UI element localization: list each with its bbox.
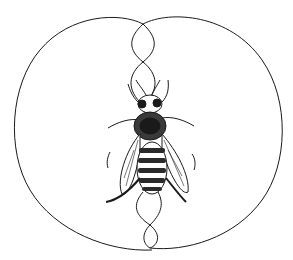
mid-leg-right: [162, 117, 194, 126]
thorax-shading: [140, 118, 160, 134]
eye-left: [138, 100, 146, 108]
figure-eight-upper: [131, 24, 155, 105]
eye-right: [153, 99, 161, 107]
waggle-dance-illustration: [0, 0, 293, 260]
illustration-svg: [0, 0, 293, 260]
motion-mark-right: [192, 154, 195, 170]
figure-eight-lower: [136, 192, 161, 248]
front-leg-right: [162, 80, 168, 102]
bee: [106, 80, 195, 202]
left-loop-path: [14, 17, 152, 250]
antenna-left: [136, 80, 146, 95]
motion-mark-left: [107, 152, 110, 168]
antenna-right: [152, 80, 160, 95]
